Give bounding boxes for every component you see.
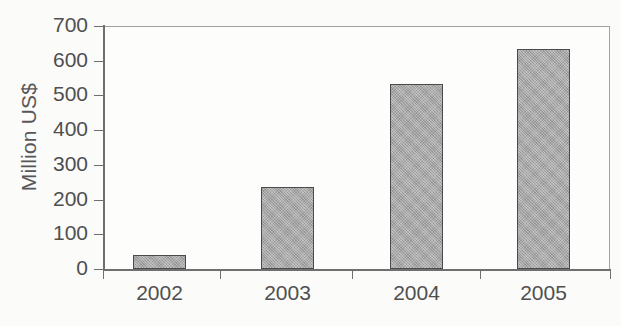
y-axis-tick-mark xyxy=(94,61,103,62)
y-axis-tick-label: 200 xyxy=(32,187,88,211)
bar-2003 xyxy=(261,187,314,269)
y-axis-tick-mark xyxy=(94,200,103,201)
x-axis-tick-mark xyxy=(352,270,353,279)
y-axis-tick-label: 500 xyxy=(32,82,88,106)
x-axis-tick-mark xyxy=(480,270,481,279)
y-axis-tick-label: 700 xyxy=(32,13,88,37)
x-axis-tick-mark xyxy=(610,270,611,279)
bar-2002 xyxy=(133,255,186,269)
bar-chart: Million US$ 0100200300400500600700 20022… xyxy=(0,0,621,326)
y-axis-tick-label: 0 xyxy=(32,256,88,280)
y-axis-tick-label: 300 xyxy=(32,152,88,176)
x-axis-tick-label-2004: 2004 xyxy=(372,281,462,305)
y-axis-tick-mark xyxy=(94,130,103,131)
x-axis-tick-label-2005: 2005 xyxy=(499,281,589,305)
y-axis-tick-mark xyxy=(94,234,103,235)
x-axis-tick-mark xyxy=(220,270,221,279)
x-axis-tick-label-2003: 2003 xyxy=(243,281,333,305)
y-axis-tick-mark xyxy=(94,269,103,270)
y-axis-tick-mark xyxy=(94,95,103,96)
y-axis-tick-label: 600 xyxy=(32,48,88,72)
y-axis-tick-mark xyxy=(94,165,103,166)
y-axis-tick-mark xyxy=(94,26,103,27)
x-axis-tick-mark xyxy=(103,270,104,279)
x-axis-line xyxy=(103,269,611,271)
bar-2005 xyxy=(517,49,570,269)
y-axis-tick-label: 400 xyxy=(32,117,88,141)
y-axis-line xyxy=(103,25,105,271)
x-axis-tick-label-2002: 2002 xyxy=(115,281,205,305)
bar-2004 xyxy=(390,84,443,269)
y-axis-tick-label: 100 xyxy=(32,221,88,245)
